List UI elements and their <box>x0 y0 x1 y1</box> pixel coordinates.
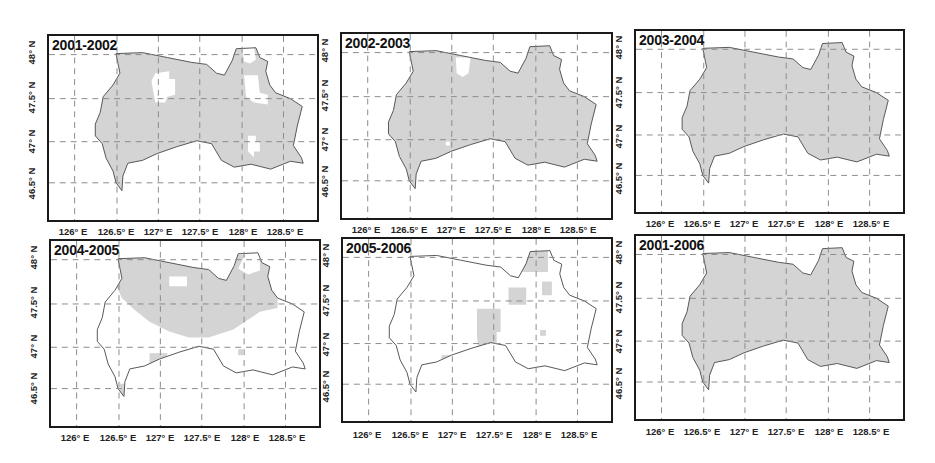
x-tick: 128.5° E <box>561 429 598 440</box>
panel-title: 2001-2006 <box>639 237 704 253</box>
map-plot <box>636 236 903 419</box>
y-tick: 48° N <box>26 38 37 68</box>
map-frame: 2004-2005 <box>49 239 321 428</box>
y-tick: 46.5° N <box>613 363 624 405</box>
y-tick: 48° N <box>319 36 330 66</box>
map-plot <box>342 34 611 218</box>
x-tick: 127.5° E <box>768 218 805 229</box>
map-plot <box>343 239 611 421</box>
panel-title: 2002-2003 <box>345 35 410 51</box>
y-tick: 47.5° N <box>26 77 37 119</box>
x-tick: 127.5° E <box>768 426 805 437</box>
x-tick: 128° E <box>523 429 552 440</box>
y-tick: 47° N <box>28 332 39 362</box>
y-tick: 47.5° N <box>319 75 330 117</box>
x-tick: 126° E <box>646 218 675 229</box>
x-tick: 128.5° E <box>853 218 890 229</box>
x-tick: 126.5° E <box>391 224 428 235</box>
y-tick: 48° N <box>28 243 39 273</box>
y-tick: 46.5° N <box>26 163 37 205</box>
y-tick: 47.5° N <box>613 277 624 319</box>
x-tick: 128° E <box>815 426 844 437</box>
y-tick: 47° N <box>26 127 37 157</box>
panel-title: 2004-2005 <box>54 242 119 258</box>
x-tick: 127° E <box>437 224 466 235</box>
map-frame: 2005-2006 <box>341 237 613 423</box>
x-tick: 126° E <box>352 224 381 235</box>
x-tick: 127.5° E <box>184 432 221 443</box>
y-tick: 46.5° N <box>613 158 624 200</box>
map-frame: 2002-2003 <box>340 32 613 220</box>
x-tick: 128° E <box>229 226 258 237</box>
x-tick: 128.5° E <box>267 226 304 237</box>
x-tick: 128.5° E <box>853 426 890 437</box>
y-tick: 46.5° N <box>319 161 330 203</box>
y-tick: 47° N <box>319 125 330 155</box>
x-tick: 126.5° E <box>684 218 721 229</box>
map-plot <box>636 31 903 212</box>
x-tick: 128° E <box>231 432 260 443</box>
panel-title: 2001-2002 <box>52 37 117 53</box>
y-tick: 47.5° N <box>320 280 331 322</box>
x-tick: 127° E <box>730 218 759 229</box>
y-tick: 47.5° N <box>28 282 39 324</box>
y-tick: 47° N <box>320 330 331 360</box>
map-frame: 2001-2002 <box>47 34 319 222</box>
y-tick: 47.5° N <box>613 72 624 114</box>
map-plot <box>51 241 319 426</box>
x-tick: 126° E <box>646 426 675 437</box>
x-tick: 127.5° E <box>182 226 219 237</box>
x-tick: 126.5° E <box>392 429 429 440</box>
map-frame: 2001-2006 <box>634 234 905 421</box>
x-tick: 127° E <box>438 429 467 440</box>
x-tick: 126.5° E <box>98 226 135 237</box>
y-tick: 48° N <box>613 238 624 268</box>
x-tick: 127.5° E <box>475 224 512 235</box>
x-tick: 126° E <box>61 432 90 443</box>
x-tick: 128° E <box>522 224 551 235</box>
y-tick: 47° N <box>613 122 624 152</box>
x-tick: 128° E <box>815 218 844 229</box>
panel-title: 2003-2004 <box>639 32 704 48</box>
x-tick: 128.5° E <box>560 224 597 235</box>
x-tick: 126.5° E <box>684 426 721 437</box>
y-tick: 46.5° N <box>28 368 39 410</box>
x-tick: 127° E <box>730 426 759 437</box>
x-tick: 127.5° E <box>476 429 513 440</box>
x-tick: 126.5° E <box>100 432 137 443</box>
x-tick: 127° E <box>144 226 173 237</box>
map-frame: 2003-2004 <box>634 29 905 214</box>
panel-title: 2005-2006 <box>346 240 411 256</box>
y-tick: 48° N <box>320 241 331 271</box>
x-tick: 126° E <box>59 226 88 237</box>
x-tick: 126° E <box>353 429 382 440</box>
y-tick: 46.5° N <box>320 366 331 408</box>
map-plot <box>49 36 317 220</box>
y-tick: 48° N <box>613 33 624 63</box>
x-tick: 128.5° E <box>269 432 306 443</box>
y-tick: 47° N <box>613 327 624 357</box>
x-tick: 127° E <box>146 432 175 443</box>
